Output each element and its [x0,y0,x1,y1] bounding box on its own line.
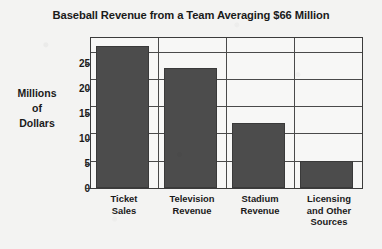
x-label-line: Sources [294,216,364,228]
x-label-line: Sales [90,205,158,217]
x-label-line: and Other [294,205,364,217]
category-divider-3 [294,38,295,188]
x-label-line: Licensing [294,193,364,205]
bar-television-revenue[interactable] [164,68,217,188]
chart-page: Baseball Revenue from a Team Averaging $… [0,0,382,249]
x-category-label-licensing-and-other-sources: Licensing and Other Sources [294,193,364,228]
category-divider-2 [226,38,227,188]
y-axis-ticks: 25 20 15 10 5 0 [50,0,90,249]
x-category-label-ticket-sales: Ticket Sales [90,193,158,216]
x-category-label-television-revenue: Television Revenue [158,193,226,216]
x-category-label-stadium-revenue: Stadium Revenue [226,193,294,216]
bar-ticket-sales[interactable] [96,46,149,188]
bar-licensing-and-other-sources[interactable] [300,161,353,188]
plot-area [90,37,363,189]
x-label-line: Television [158,193,226,205]
plot-inner [91,38,362,188]
x-label-line: Ticket [90,193,158,205]
category-divider-1 [158,38,159,188]
x-label-line: Revenue [226,205,294,217]
x-label-line: Revenue [158,205,226,217]
x-label-line: Stadium [226,193,294,205]
bar-stadium-revenue[interactable] [232,123,285,188]
